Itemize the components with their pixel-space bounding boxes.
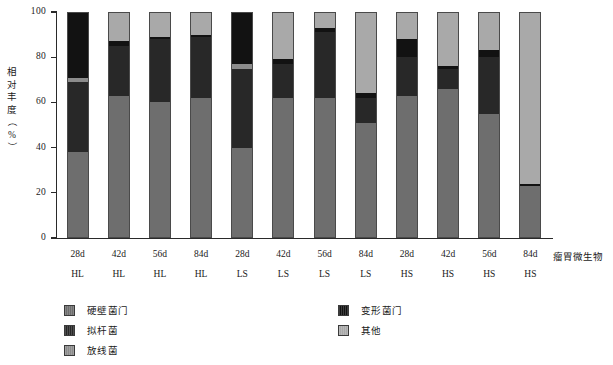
bar-segment-硬壁菌门: [190, 98, 212, 238]
bar-segment-其他: [149, 12, 171, 37]
x-label-day: 84d: [502, 249, 558, 259]
legend-column-left: 硬壁菌门拟杆菌放线菌: [64, 300, 129, 360]
legend-swatch-icon: [64, 325, 75, 336]
bar-segment-其他: [519, 12, 541, 184]
bar-segment-拟杆菌: [437, 69, 459, 89]
x-label-group: HS: [502, 269, 558, 279]
bar-segment-拟杆菌: [396, 57, 418, 95]
bar-segment-其他: [190, 12, 212, 35]
bar-segment-硬壁菌门: [355, 123, 377, 238]
y-axis-title-char: 对: [4, 79, 20, 92]
bar-segment-变形菌门: [67, 12, 89, 78]
legend-item-拟杆菌[interactable]: 拟杆菌: [64, 320, 129, 340]
bar-segment-放线菌: [231, 64, 253, 69]
bar-segment-拟杆菌: [149, 39, 171, 102]
y-axis-title-char: 丰: [4, 91, 20, 104]
bar-segment-硬壁菌门: [67, 152, 89, 238]
bar-HS-28d[interactable]: [396, 12, 418, 238]
bar-segment-拟杆菌: [478, 57, 500, 114]
y-tick-100: [51, 11, 56, 12]
legend-label: 拟杆菌: [87, 323, 118, 337]
bar-segment-变形菌门: [396, 39, 418, 57]
bar-segment-硬壁菌门: [108, 96, 130, 238]
bar-segment-硬壁菌门: [149, 102, 171, 238]
bar-LS-42d[interactable]: [272, 12, 294, 238]
bar-segment-硬壁菌门: [437, 89, 459, 238]
bar-segment-变形菌门: [519, 184, 541, 186]
bar-segment-其他: [437, 12, 459, 66]
bar-segment-拟杆菌: [231, 69, 253, 148]
bar-segment-变形菌门: [149, 37, 171, 39]
bar-segment-其他: [108, 12, 130, 41]
legend-item-变形菌门[interactable]: 变形菌门: [338, 300, 403, 320]
y-axis-title-char: （: [6, 114, 19, 130]
bar-HL-28d[interactable]: [67, 12, 89, 238]
y-axis-title-char: 相: [4, 66, 20, 79]
legend-label: 其他: [361, 323, 382, 337]
bar-segment-其他: [272, 12, 294, 59]
bar-segment-拟杆菌: [108, 46, 130, 96]
bar-HL-56d[interactable]: [149, 12, 171, 238]
bar-segment-变形菌门: [272, 59, 294, 64]
bar-segment-变形菌门: [437, 66, 459, 68]
legend-label: 放线菌: [87, 343, 118, 357]
bar-segment-其他: [396, 12, 418, 39]
y-tick-label-0: 0: [6, 232, 46, 242]
y-tick-label-100: 100: [6, 6, 46, 16]
bar-segment-变形菌门: [355, 93, 377, 98]
x-label-HS-84d: 84dHS: [502, 249, 558, 279]
bar-segment-硬壁菌门: [272, 98, 294, 238]
x-axis-line: [56, 238, 553, 239]
bar-segment-其他: [314, 12, 336, 28]
legend-label: 硬壁菌门: [87, 303, 129, 317]
y-tick-80: [51, 57, 56, 58]
bar-segment-变形菌门: [314, 28, 336, 33]
legend-item-硬壁菌门[interactable]: 硬壁菌门: [64, 300, 129, 320]
legend-swatch-icon: [64, 305, 75, 316]
plot-area: [57, 12, 551, 238]
bar-HS-84d[interactable]: [519, 12, 541, 238]
bar-HS-42d[interactable]: [437, 12, 459, 238]
y-axis-title-char: ）: [6, 139, 19, 155]
y-tick-20: [51, 192, 56, 193]
bar-LS-84d[interactable]: [355, 12, 377, 238]
bar-segment-放线菌: [67, 78, 89, 83]
bar-segment-硬壁菌门: [231, 148, 253, 238]
bar-segment-变形菌门: [108, 41, 130, 46]
legend-label: 变形菌门: [361, 303, 403, 317]
bar-HL-42d[interactable]: [108, 12, 130, 238]
y-tick-label-80: 80: [6, 51, 46, 61]
bar-segment-拟杆菌: [355, 98, 377, 123]
bar-segment-变形菌门: [231, 12, 253, 64]
legend-item-放线菌[interactable]: 放线菌: [64, 340, 129, 360]
bar-HS-56d[interactable]: [478, 12, 500, 238]
y-tick-40: [51, 147, 56, 148]
bar-segment-拟杆菌: [314, 32, 336, 98]
bar-segment-其他: [478, 12, 500, 50]
bar-segment-硬壁菌门: [396, 96, 418, 238]
legend-item-其他[interactable]: 其他: [338, 320, 403, 340]
bar-segment-其他: [355, 12, 377, 93]
bar-segment-拟杆菌: [190, 37, 212, 98]
bar-segment-拟杆菌: [272, 64, 294, 98]
y-axis-title: 相对丰度（%）: [4, 66, 20, 154]
y-tick-0: [51, 237, 56, 238]
bar-segment-拟杆菌: [67, 82, 89, 152]
legend-swatch-icon: [338, 325, 349, 336]
legend-swatch-icon: [338, 305, 349, 316]
bar-segment-硬壁菌门: [478, 114, 500, 238]
stacked-bar-chart: 020406080100 相对丰度（%） 28dHL42dHL56dHL84dH…: [0, 0, 613, 365]
legend-swatch-icon: [64, 345, 75, 356]
x-axis-title: 瘤胃微生物: [553, 249, 603, 263]
legend-column-right: 变形菌门其他: [338, 300, 403, 340]
bar-segment-变形菌门: [478, 50, 500, 57]
bar-segment-硬壁菌门: [314, 98, 336, 238]
bar-segment-硬壁菌门: [519, 186, 541, 238]
bar-HL-84d[interactable]: [190, 12, 212, 238]
bar-LS-56d[interactable]: [314, 12, 336, 238]
y-tick-label-20: 20: [6, 187, 46, 197]
bar-segment-变形菌门: [190, 35, 212, 37]
y-tick-60: [51, 102, 56, 103]
bar-LS-28d[interactable]: [231, 12, 253, 238]
